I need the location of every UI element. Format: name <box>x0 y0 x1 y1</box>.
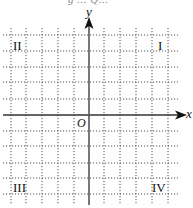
quadrant-label-I: I <box>158 39 162 52</box>
coordinate-plane-figure: g ... Q... y x O II I III IV <box>0 0 193 208</box>
y-axis <box>85 17 94 205</box>
quadrant-label-IV: IV <box>152 181 166 194</box>
x-axis <box>3 111 187 120</box>
quadrant-label-II: II <box>13 39 22 52</box>
coordinate-grid <box>0 0 193 208</box>
y-axis-label: y <box>86 5 92 18</box>
x-axis-label: x <box>186 107 192 120</box>
origin-label: O <box>77 117 86 129</box>
quadrant-label-III: III <box>13 181 26 194</box>
